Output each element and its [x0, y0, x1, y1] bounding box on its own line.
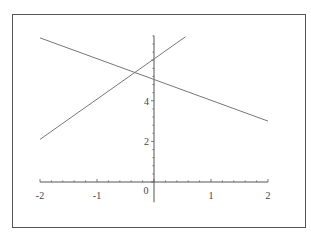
axes	[40, 36, 268, 202]
x-tick-label: 0	[144, 185, 149, 196]
x-tick-label: 2	[266, 190, 271, 201]
line-chart: -2-101224	[0, 0, 311, 239]
x-tick-label: 1	[209, 190, 214, 201]
y-tick-label: 2	[144, 136, 149, 147]
x-tick-label: -1	[93, 190, 101, 201]
y-tick-label: 4	[144, 96, 149, 107]
x-tick-label: -2	[36, 190, 44, 201]
tick-labels: -2-101224	[36, 96, 271, 201]
line-increasing	[40, 37, 185, 140]
